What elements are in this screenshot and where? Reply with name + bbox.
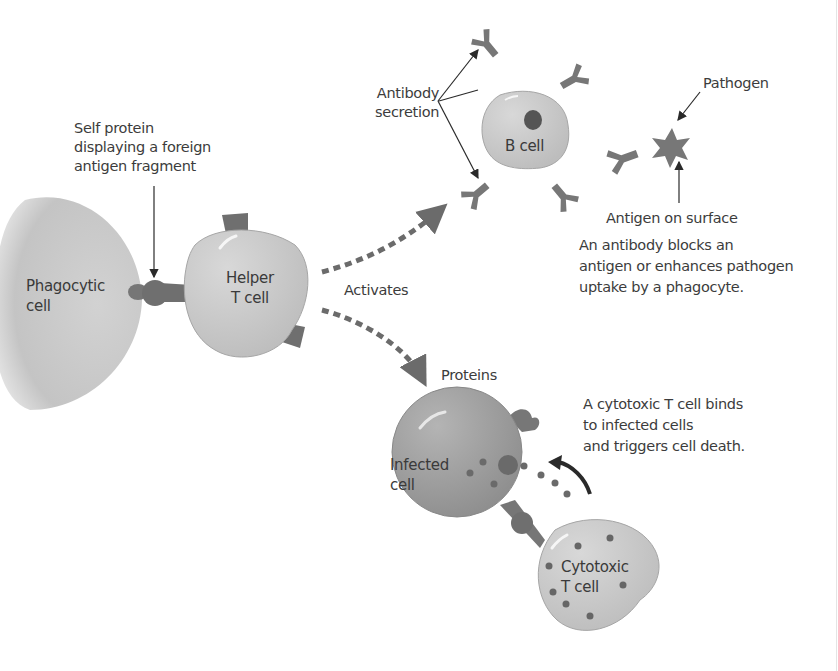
helper-t-cell-label-line1: Helper <box>222 268 278 288</box>
cytotoxic-t-cell-label-line1: Cytotoxic <box>561 557 629 577</box>
antibody-description-line2: antigen or enhances pathogen <box>579 256 793 277</box>
antigen-surface-label: Antigen on surface <box>606 209 738 228</box>
helper-t-cell-label: Helper T cell <box>222 268 278 308</box>
cytotoxic-description: A cytotoxic T cell binds to infected cel… <box>583 394 745 457</box>
antibody-description-line1: An antibody blocks an <box>579 235 793 256</box>
antibody-secretion-label-line1: Antibody <box>375 84 439 103</box>
activates-label: Activates <box>344 281 408 300</box>
cytotoxic-description-line1: A cytotoxic T cell binds <box>583 394 745 415</box>
immune-response-diagram: Self protein displaying a foreign antige… <box>0 0 838 671</box>
cytotoxic-description-line3: and triggers cell death. <box>583 436 745 457</box>
antibody-secretion-label-line2: secretion <box>375 103 439 122</box>
antibody-icon <box>556 62 592 97</box>
antibody-icon <box>458 176 495 212</box>
phagocytic-cell-label-line2: cell <box>26 296 105 316</box>
antibody-description: An antibody blocks an antigen or enhance… <box>579 235 793 298</box>
pathogen-label: Pathogen <box>703 74 769 93</box>
cytotoxic-t-cell-label: Cytotoxic T cell <box>561 557 629 597</box>
cytotoxic-t-cell-label-line2: T cell <box>561 577 629 597</box>
self-protein-label-line2: displaying a foreign <box>74 138 211 157</box>
page-edge-divider <box>836 0 837 671</box>
helper-t-cell-label-line2: T cell <box>222 288 278 308</box>
self-protein-label: Self protein displaying a foreign antige… <box>74 119 211 176</box>
infected-cell-label-line2: cell <box>390 475 449 495</box>
infected-cell-label: Infected cell <box>390 455 449 495</box>
antibody-icon <box>469 26 505 63</box>
cell-death-signal <box>538 455 591 498</box>
b-cell <box>482 91 569 168</box>
phagocytic-cell-label-line1: Phagocytic <box>26 276 105 296</box>
antibody-icon <box>605 141 642 176</box>
b-cell-label: B cell <box>505 136 544 156</box>
cytotoxic-description-line2: to infected cells <box>583 415 745 436</box>
antibody-icon <box>545 178 581 215</box>
phagocytic-cell-label: Phagocytic cell <box>26 276 105 316</box>
antibody-secretion-label: Antibody secretion <box>375 84 439 122</box>
self-protein-label-line1: Self protein <box>74 119 211 138</box>
proteins-label: Proteins <box>441 366 497 385</box>
antibody-description-line3: uptake by a phagocyte. <box>579 277 793 298</box>
pathogen-icon <box>652 128 690 168</box>
infected-cell <box>392 387 539 517</box>
self-protein-label-line3: antigen fragment <box>74 157 211 176</box>
receptor-complex-icon <box>500 500 545 548</box>
infected-cell-label-line1: Infected <box>390 455 449 475</box>
